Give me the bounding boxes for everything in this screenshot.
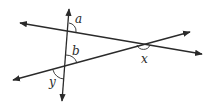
angle-label-b: b: [72, 45, 80, 57]
geometry-diagram: a b x y: [0, 0, 212, 109]
lines-figure: [0, 0, 212, 109]
angle-label-y: y: [49, 76, 56, 88]
angle-label-a: a: [75, 13, 82, 25]
angle-label-x: x: [141, 53, 148, 65]
upper-line: [20, 23, 202, 54]
lower-line: [13, 32, 190, 80]
